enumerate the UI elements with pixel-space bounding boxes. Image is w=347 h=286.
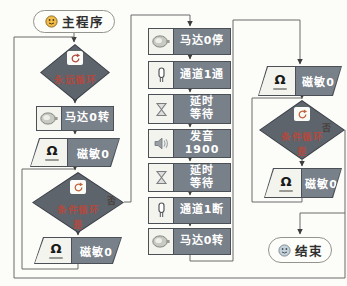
delay-wait-block[interactable]: 延时 等待 <box>148 94 231 124</box>
motor-icon <box>149 229 174 254</box>
block-label: 通道1断 <box>180 204 225 217</box>
motor-on-block[interactable]: 马达0转 <box>36 106 114 131</box>
smiley-icon <box>278 244 291 257</box>
block-label: 马达0转 <box>180 235 225 248</box>
end-node[interactable]: 结束 <box>268 237 332 263</box>
sensor-label: 磁敏0 <box>305 175 338 191</box>
led-icon <box>149 62 174 88</box>
flowchart-canvas: 主程序 永远循环 马达0转 <box>0 0 347 286</box>
block-label-2: 等待 <box>190 178 214 191</box>
sound-block[interactable]: 发音 1900 <box>148 129 231 158</box>
motor-icon <box>149 29 174 54</box>
loop-icon <box>70 180 86 194</box>
loop-icon <box>67 51 83 65</box>
start-node[interactable]: 主程序 <box>33 10 115 33</box>
no-label: 否 <box>322 121 331 134</box>
block-label: 通道1通 <box>180 69 225 82</box>
channel-on-block[interactable]: 通道1通 <box>148 61 231 89</box>
block-label-2: 1900 <box>185 144 220 157</box>
delay-wait-block[interactable]: 延时 等待 <box>148 163 231 192</box>
hourglass-icon <box>149 95 174 123</box>
block-label: 延时 <box>190 165 214 178</box>
smiley-icon <box>45 15 58 28</box>
sensor-label: 磁敏0 <box>77 145 110 161</box>
end-label: 结束 <box>295 241 323 260</box>
led-icon <box>149 198 174 223</box>
speaker-icon <box>149 130 174 157</box>
magnet-sensor-input[interactable]: Ω 磁敏0 <box>258 66 342 96</box>
magnet-sensor-input[interactable]: Ω 磁敏0 <box>30 138 120 167</box>
block-label: 马达0停 <box>180 35 225 48</box>
block-label: 马达0转 <box>65 112 110 125</box>
sensor-label: 磁敏0 <box>80 243 113 259</box>
sensor-label: 磁敏0 <box>302 73 335 89</box>
channel-off-block[interactable]: 通道1断 <box>148 197 231 224</box>
motor-stop-block[interactable]: 马达0停 <box>148 28 231 55</box>
magnet-sensor-input[interactable]: Ω 磁敏0 <box>264 168 342 198</box>
start-label: 主程序 <box>62 12 104 31</box>
block-label: 发音 <box>190 131 214 144</box>
block-label-2: 等待 <box>190 109 214 122</box>
motor-icon <box>37 107 62 130</box>
magnet-sensor-input[interactable]: Ω 磁敏0 <box>34 237 122 264</box>
hourglass-icon <box>149 164 174 191</box>
motor-on-block[interactable]: 马达0转 <box>148 228 231 255</box>
loop-icon <box>294 107 310 121</box>
